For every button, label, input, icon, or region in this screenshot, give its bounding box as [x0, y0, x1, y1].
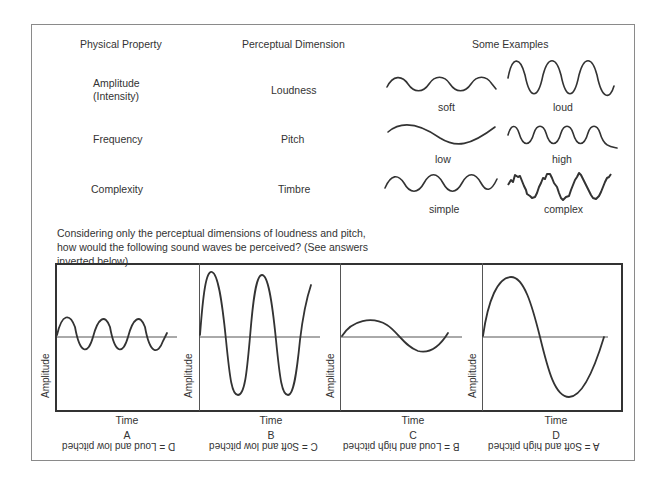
panel-waves — [0, 0, 667, 482]
ylabel-b: Amplitude — [183, 354, 194, 398]
answer-inverted-d: A = Soft and high pitched — [488, 441, 599, 452]
xlabel-a: Time — [97, 414, 157, 426]
answer-inverted-a: D = Loud and low pitched — [62, 441, 175, 452]
ylabel-d: Amplitude — [467, 354, 478, 398]
wave-a — [57, 317, 167, 350]
panel-letter-a: A — [97, 429, 157, 441]
xlabel-d: Time — [526, 414, 586, 426]
panel-letter-d: D — [526, 429, 586, 441]
panel-letter-b: B — [241, 429, 301, 441]
answer-inverted-b: C = Soft and low pitched — [209, 441, 318, 452]
xlabel-b: Time — [241, 414, 301, 426]
panel-letter-c: C — [383, 429, 443, 441]
wave-c — [342, 320, 448, 351]
ylabel-a: Amplitude — [40, 354, 51, 398]
xlabel-c: Time — [383, 414, 443, 426]
wave-b — [200, 272, 311, 395]
answer-inverted-c: B = Loud and high pitched — [343, 441, 459, 452]
ylabel-c: Amplitude — [325, 354, 336, 398]
